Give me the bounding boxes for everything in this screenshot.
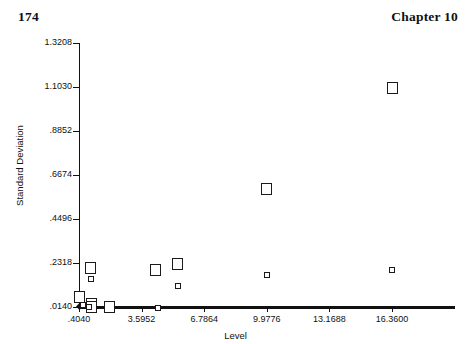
x-tick-mark bbox=[142, 307, 143, 312]
data-point-marker bbox=[175, 283, 181, 289]
figure-page: 174 Chapter 10 1.32081.1030.8852.6674.44… bbox=[0, 0, 471, 344]
y-tick-label-row: 1.3208 bbox=[0, 38, 72, 47]
y-tick-mark bbox=[73, 219, 79, 220]
y-axis-line bbox=[79, 43, 80, 308]
data-point-marker bbox=[172, 258, 183, 270]
y-tick-mark bbox=[73, 87, 79, 88]
x-tick-label: 9.9776 bbox=[237, 314, 297, 324]
data-point-marker bbox=[264, 272, 270, 278]
data-point-marker bbox=[150, 264, 161, 276]
y-tick-label-row: .8852 bbox=[0, 126, 72, 135]
x-tick-label: 13.1688 bbox=[299, 314, 359, 324]
x-axis-title: Level bbox=[0, 330, 471, 341]
y-tick-label-row: .4496 bbox=[0, 214, 72, 223]
data-point-marker bbox=[389, 267, 395, 273]
x-tick-label: 16.3600 bbox=[362, 314, 422, 324]
data-point-marker bbox=[86, 304, 92, 310]
y-tick-label: 1.1030 bbox=[28, 82, 72, 91]
x-tick-mark bbox=[267, 307, 268, 312]
y-tick-mark bbox=[73, 131, 79, 132]
y-tick-label: .8852 bbox=[28, 126, 72, 135]
data-point-marker bbox=[104, 301, 115, 313]
x-tick-mark bbox=[392, 307, 393, 312]
y-tick-label: .0140 bbox=[28, 302, 72, 311]
x-tick-mark bbox=[204, 307, 205, 312]
x-tick-mark bbox=[329, 307, 330, 312]
y-tick-label: .4496 bbox=[28, 214, 72, 223]
data-point-marker bbox=[88, 276, 94, 282]
data-point-marker bbox=[155, 305, 161, 311]
y-tick-label-row: .0140 bbox=[0, 302, 72, 311]
x-tick-label: 3.5952 bbox=[112, 314, 172, 324]
y-tick-mark bbox=[73, 263, 79, 264]
y-axis-title: Standard Deviation bbox=[14, 101, 25, 231]
y-tick-mark bbox=[73, 43, 79, 44]
x-tick-label: 6.7864 bbox=[174, 314, 234, 324]
data-point-marker bbox=[85, 262, 96, 274]
y-tick-label-row: .2318 bbox=[0, 258, 72, 267]
y-tick-mark bbox=[73, 175, 79, 176]
y-tick-label: .2318 bbox=[28, 258, 72, 267]
y-tick-label-row: .6674 bbox=[0, 170, 72, 179]
y-tick-label: .6674 bbox=[28, 170, 72, 179]
y-tick-label-row: 1.1030 bbox=[0, 82, 72, 91]
y-tick-label: 1.3208 bbox=[28, 38, 72, 47]
data-point-marker bbox=[387, 82, 398, 94]
scatter-plot: 1.32081.1030.8852.6674.4496.2318.0140 .4… bbox=[0, 0, 471, 344]
data-point-marker bbox=[261, 183, 272, 195]
x-tick-label: .4040 bbox=[49, 314, 109, 324]
